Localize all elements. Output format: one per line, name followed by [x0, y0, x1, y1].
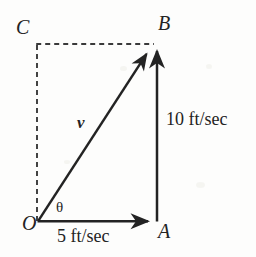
- vector-diagram: C B O A v θ 10 ft/sec 5 ft/sec: [0, 0, 256, 257]
- resultant-vector-label: v: [77, 114, 85, 131]
- vertical-component-label: 10 ft/sec: [166, 110, 227, 128]
- point-label-o: O: [22, 213, 36, 233]
- horizontal-component-label: 5 ft/sec: [57, 227, 109, 245]
- point-label-a: A: [158, 221, 170, 241]
- point-label-c: C: [16, 17, 29, 37]
- resultant-vector: [39, 54, 147, 221]
- point-label-b: B: [158, 13, 170, 33]
- angle-theta-label: θ: [56, 200, 63, 215]
